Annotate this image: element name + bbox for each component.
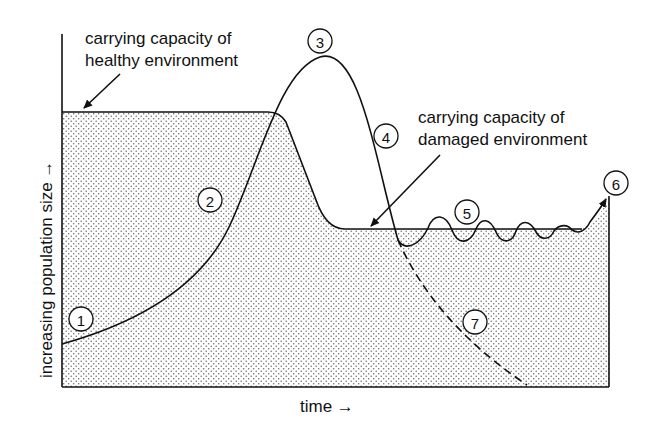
marker-7: 7: [463, 310, 487, 334]
svg-text:3: 3: [316, 34, 324, 51]
marker-1: 1: [69, 307, 93, 331]
svg-text:7: 7: [471, 315, 479, 332]
healthy-capacity-label-line2: healthy environment: [85, 51, 238, 70]
healthy-capacity-label-line1: carrying capacity of: [85, 29, 232, 48]
svg-text:2: 2: [206, 193, 214, 210]
x-axis-label: time →: [300, 397, 354, 416]
healthy-capacity-arrow: [84, 74, 120, 108]
marker-4: 4: [374, 124, 398, 148]
svg-text:6: 6: [612, 176, 620, 193]
damaged-capacity-label-line1: carrying capacity of: [418, 108, 565, 127]
marker-3: 3: [308, 29, 332, 53]
marker-5: 5: [455, 200, 479, 224]
y-axis-label: increasing population size →: [37, 161, 56, 378]
marker-6: 6: [604, 171, 628, 195]
carrying-capacity-region: [62, 112, 609, 387]
svg-text:4: 4: [382, 129, 390, 146]
damaged-capacity-arrow: [371, 155, 440, 226]
marker-2: 2: [198, 188, 222, 212]
svg-text:5: 5: [463, 205, 471, 222]
damaged-capacity-label-line2: damaged environment: [418, 130, 587, 149]
svg-text:1: 1: [77, 312, 85, 329]
population-diagram: carrying capacity of healthy environment…: [0, 0, 659, 425]
